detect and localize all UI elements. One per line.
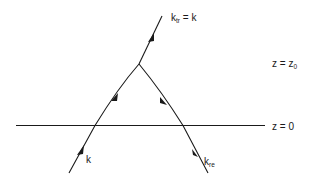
incident-ray — [69, 64, 139, 173]
arrow-transmitted-icon — [148, 33, 154, 42]
arrow-reflected-upper-icon — [160, 97, 167, 105]
incident-ray-label: k — [86, 154, 92, 165]
transmitted-ray-label: ktr = k — [171, 12, 197, 24]
interface-z-zero-label: z = 0 — [272, 121, 294, 132]
wave-reflection-diagram: ktr = k z = z0 z = 0 k kre — [0, 0, 314, 184]
interface-z0-label: z = z0 — [272, 58, 297, 70]
reflected-ray-label: kre — [204, 156, 215, 168]
arrow-incident-upper-icon — [111, 93, 118, 101]
